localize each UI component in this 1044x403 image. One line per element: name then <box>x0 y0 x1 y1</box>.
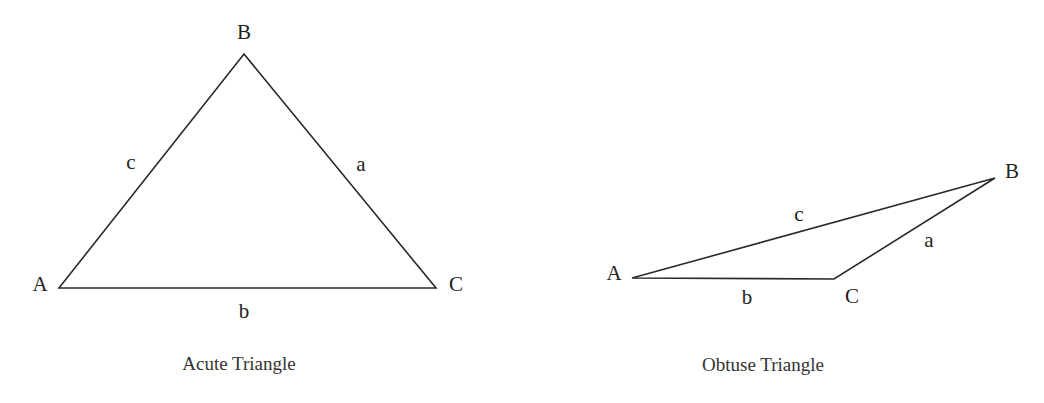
obtuse-side-a-label: a <box>924 228 934 252</box>
obtuse-vertex-a-label: A <box>606 261 622 285</box>
triangle-diagram: B A C c a b Acute Triangle A B C c a b O… <box>0 0 1044 403</box>
obtuse-vertex-b-label: B <box>1005 159 1019 183</box>
acute-triangle: B A C c a b Acute Triangle <box>32 20 463 374</box>
acute-vertex-b-label: B <box>237 20 251 44</box>
acute-vertex-c-label: C <box>449 272 463 296</box>
obtuse-triangle-caption: Obtuse Triangle <box>702 354 824 375</box>
obtuse-side-b-label: b <box>742 285 753 309</box>
obtuse-triangle: A B C c a b Obtuse Triangle <box>606 159 1019 375</box>
acute-vertex-a-label: A <box>32 272 48 296</box>
acute-side-c-label: c <box>126 150 135 174</box>
obtuse-side-c-label: c <box>794 202 803 226</box>
acute-triangle-outline <box>59 54 436 288</box>
obtuse-vertex-c-label: C <box>845 284 859 308</box>
acute-side-b-label: b <box>239 299 250 323</box>
acute-side-a-label: a <box>356 152 366 176</box>
acute-triangle-caption: Acute Triangle <box>182 353 295 374</box>
obtuse-triangle-outline <box>632 178 995 279</box>
